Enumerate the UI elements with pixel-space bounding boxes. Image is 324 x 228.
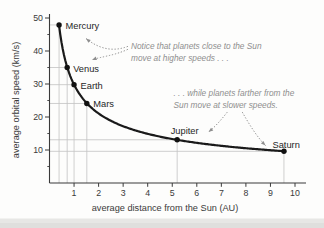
annotation-note-close-line-2: move at higher speeds . . . [131, 53, 229, 63]
data-point-mars [84, 101, 89, 106]
planet-label-mercury: Mercury [66, 21, 100, 31]
orbital-speed-figure: 102030405012345678910average distance fr… [0, 0, 324, 228]
planet-label-saturn: Saturn [272, 140, 299, 150]
annotation-note-far-line-2: Sun move at slower speeds. [174, 100, 278, 110]
x-tick-label-7: 7 [219, 188, 224, 198]
data-point-mercury [56, 22, 61, 27]
x-tick-label-8: 8 [243, 188, 248, 198]
y-tick-label-30: 30 [33, 79, 43, 89]
data-point-venus [64, 65, 69, 70]
x-tick-label-4: 4 [145, 188, 150, 198]
planet-label-earth: Earth [81, 81, 103, 91]
y-tick-label-40: 40 [33, 46, 43, 56]
planet-label-jupiter: Jupiter [171, 126, 199, 136]
x-axis-title: average distance from the Sun (AU) [92, 203, 239, 213]
data-point-jupiter [174, 137, 179, 142]
y-axis-title: average orbital speed (km/s) [11, 42, 21, 158]
y-tick-label-20: 20 [33, 112, 43, 122]
x-tick-label-1: 1 [72, 188, 77, 198]
x-tick-label-6: 6 [194, 188, 199, 198]
annotation-note-close-line-1: Notice that planets close to the Sun [131, 41, 262, 51]
y-tick-label-50: 50 [33, 13, 43, 23]
data-point-earth [71, 82, 76, 87]
planet-label-mars: Mars [93, 99, 114, 109]
page-edge-band-shade [0, 223, 324, 228]
x-tick-label-9: 9 [268, 188, 273, 198]
x-tick-label-10: 10 [290, 188, 300, 198]
x-tick-label-3: 3 [121, 188, 126, 198]
x-tick-label-2: 2 [96, 188, 101, 198]
planet-label-venus: Venus [73, 64, 99, 74]
y-tick-label-10: 10 [33, 145, 43, 155]
annotation-note-far-line-1: . . . while planets farther from the [174, 88, 295, 98]
x-tick-label-5: 5 [170, 188, 175, 198]
orbital-speed-chart: 102030405012345678910average distance fr… [0, 0, 324, 228]
